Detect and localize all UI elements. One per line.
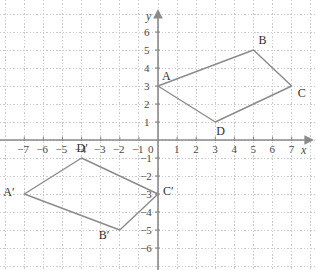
y-tick-label: 6 bbox=[144, 27, 150, 38]
plot-canvas bbox=[0, 0, 316, 270]
y-tick-label: −6 bbox=[140, 243, 152, 254]
vertex-label-B′: B′ bbox=[99, 229, 110, 241]
x-tick-label: 2 bbox=[193, 144, 199, 155]
vertex-label-C: C bbox=[298, 87, 306, 99]
vertex-label-B: B bbox=[259, 34, 267, 46]
x-tick-label: −3 bbox=[94, 144, 106, 155]
x-axis-name: x bbox=[301, 144, 306, 156]
y-tick-label: −2 bbox=[140, 171, 152, 182]
quadrilateral-A′B′C′D′ bbox=[24, 158, 158, 230]
vertex-label-D: D bbox=[216, 125, 225, 137]
x-tick-label: 3 bbox=[212, 144, 218, 155]
y-tick-label: 4 bbox=[144, 63, 150, 74]
y-axis-name: y bbox=[146, 10, 151, 22]
y-tick-label: −3 bbox=[140, 189, 152, 200]
y-tick-label: 1 bbox=[144, 117, 150, 128]
vertex-label-D′: D′ bbox=[77, 142, 88, 154]
x-tick-label: −2 bbox=[113, 144, 125, 155]
x-tick-label: 6 bbox=[270, 144, 276, 155]
x-tick-label: 1 bbox=[174, 144, 180, 155]
x-tick-label: 5 bbox=[251, 144, 257, 155]
vertex-label-A: A bbox=[162, 70, 171, 82]
y-tick-label: −4 bbox=[140, 207, 152, 218]
vertex-label-A′: A′ bbox=[3, 186, 14, 198]
y-tick-label: −5 bbox=[140, 225, 152, 236]
x-tick-label: −7 bbox=[17, 144, 29, 155]
x-tick-label: −6 bbox=[36, 144, 48, 155]
y-tick-label: −1 bbox=[140, 153, 152, 164]
y-tick-label: 2 bbox=[144, 99, 150, 110]
x-tick-label: 4 bbox=[231, 144, 237, 155]
y-tick-label: 5 bbox=[144, 45, 150, 56]
vertex-label-C′: C′ bbox=[163, 185, 174, 197]
x-tick-label: 7 bbox=[289, 144, 295, 155]
x-tick-label: −5 bbox=[56, 144, 68, 155]
coordinate-plane-figure: −7−6−5−4−3−2−101234567123456−1−2−3−4−5−6… bbox=[0, 0, 316, 270]
y-tick-label: 3 bbox=[144, 81, 150, 92]
